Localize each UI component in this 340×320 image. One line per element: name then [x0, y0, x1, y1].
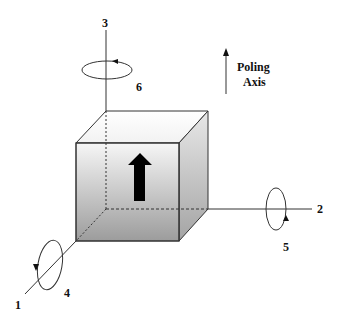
axis-3-label: 3 [102, 16, 108, 30]
rotation-6-label: 6 [136, 80, 142, 94]
rotation-4-arrow [33, 238, 66, 291]
rotation-6-arrow [82, 59, 132, 79]
poling-axis-arrow-icon [223, 48, 229, 94]
rotation-5-label: 5 [283, 240, 289, 254]
axis-2-label: 2 [317, 202, 323, 216]
poling-axis-diagram: 3 6 Poling Axis 2 5 1 [0, 0, 340, 320]
axis-1-label: 1 [15, 298, 21, 312]
poling-axis-label-line1: Poling [237, 60, 270, 74]
poling-axis-label-line2: Axis [243, 75, 266, 89]
rotation-4-label: 4 [64, 286, 70, 300]
